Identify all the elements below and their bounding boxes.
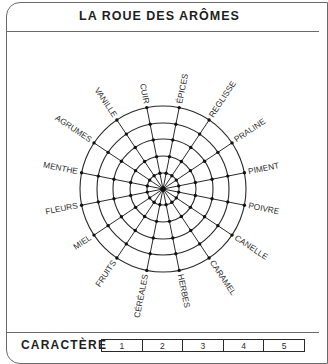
rating-node[interactable] xyxy=(230,141,233,144)
aroma-label-poivre: POIVRE xyxy=(248,200,281,216)
rating-node[interactable] xyxy=(230,233,233,236)
rating-node[interactable] xyxy=(155,155,158,158)
character-label: CARACTÈRE xyxy=(21,338,107,352)
rating-node[interactable] xyxy=(189,169,192,172)
rating-node[interactable] xyxy=(152,201,155,204)
rating-node[interactable] xyxy=(125,242,128,245)
rating-node[interactable] xyxy=(177,106,180,109)
rating-node[interactable] xyxy=(198,132,201,135)
aroma-label-céréales: CÉRÉALES xyxy=(132,273,151,319)
rating-node[interactable] xyxy=(164,203,167,206)
rating-node[interactable] xyxy=(174,123,177,126)
rating-node[interactable] xyxy=(180,160,183,163)
rating-node[interactable] xyxy=(120,215,123,218)
rating-node[interactable] xyxy=(226,174,229,177)
rating-node[interactable] xyxy=(243,171,246,174)
rating-node[interactable] xyxy=(155,220,158,223)
rating-node[interactable] xyxy=(152,174,155,177)
rating-node[interactable] xyxy=(129,194,132,197)
rating-node[interactable] xyxy=(97,174,100,177)
aroma-label-herbes: HERBES xyxy=(176,273,193,309)
rating-node[interactable] xyxy=(148,178,151,181)
rating-node[interactable] xyxy=(80,171,83,174)
rating-node[interactable] xyxy=(177,269,180,272)
scale-cell-2[interactable]: 2 xyxy=(142,340,183,351)
rating-node[interactable] xyxy=(168,220,171,223)
rating-node[interactable] xyxy=(125,132,128,135)
aroma-label-reglisse: REGLISSE xyxy=(207,79,239,119)
rating-node[interactable] xyxy=(189,229,192,232)
rating-node[interactable] xyxy=(148,252,151,255)
rating-node[interactable] xyxy=(146,190,149,193)
rating-node[interactable] xyxy=(177,190,180,193)
rating-node[interactable] xyxy=(143,215,146,218)
rating-node[interactable] xyxy=(168,155,171,158)
rating-node[interactable] xyxy=(134,206,137,209)
rating-node[interactable] xyxy=(120,160,123,163)
rating-node[interactable] xyxy=(189,206,192,209)
rating-node[interactable] xyxy=(115,118,118,121)
rating-node[interactable] xyxy=(194,181,197,184)
rating-node[interactable] xyxy=(134,229,137,232)
aroma-label-agrumes: AGRUMES xyxy=(53,113,94,145)
rating-node[interactable] xyxy=(152,236,155,239)
rating-node[interactable] xyxy=(174,252,177,255)
scale-cell-5[interactable]: 5 xyxy=(263,340,304,351)
rating-node[interactable] xyxy=(92,233,95,236)
rating-node[interactable] xyxy=(129,181,132,184)
rating-node[interactable] xyxy=(134,169,137,172)
rating-node[interactable] xyxy=(189,146,192,149)
rating-node[interactable] xyxy=(203,215,206,218)
rating-node[interactable] xyxy=(171,138,174,141)
rating-node[interactable] xyxy=(92,141,95,144)
rating-node[interactable] xyxy=(158,172,161,175)
rating-node[interactable] xyxy=(175,196,178,199)
rating-node[interactable] xyxy=(210,178,213,181)
aroma-label-menthe: MENTHE xyxy=(42,159,79,176)
rating-node[interactable] xyxy=(216,224,219,227)
rating-node[interactable] xyxy=(198,242,201,245)
rating-node[interactable] xyxy=(115,256,118,259)
rating-node[interactable] xyxy=(170,174,173,177)
rating-node[interactable] xyxy=(175,178,178,181)
rating-node[interactable] xyxy=(177,184,180,187)
rating-node[interactable] xyxy=(226,200,229,203)
aroma-label-vanille: VANILLE xyxy=(93,86,120,120)
rating-node[interactable] xyxy=(112,178,115,181)
rating-node[interactable] xyxy=(203,160,206,163)
rating-node[interactable] xyxy=(210,197,213,200)
aroma-label-piment: PIMENT xyxy=(247,160,280,176)
rating-node[interactable] xyxy=(112,197,115,200)
aroma-label-fleurs: FLEURS xyxy=(44,200,79,216)
aroma-label-cuir: CUIR xyxy=(138,83,152,105)
scale-cell-1[interactable]: 1 xyxy=(102,340,142,351)
scale-cell-3[interactable]: 3 xyxy=(182,340,223,351)
rating-node[interactable] xyxy=(145,269,148,272)
wheel-center xyxy=(161,187,166,192)
rating-node[interactable] xyxy=(80,203,83,206)
rating-node[interactable] xyxy=(106,224,109,227)
aroma-label-canelle: CANELLE xyxy=(233,233,270,263)
rating-node[interactable] xyxy=(97,200,100,203)
rating-node[interactable] xyxy=(148,196,151,199)
rating-node[interactable] xyxy=(171,236,174,239)
rating-node[interactable] xyxy=(143,160,146,163)
footer-divider xyxy=(6,332,319,333)
rating-node[interactable] xyxy=(146,184,149,187)
rating-node[interactable] xyxy=(164,172,167,175)
rating-node[interactable] xyxy=(180,215,183,218)
rating-node[interactable] xyxy=(207,118,210,121)
rating-node[interactable] xyxy=(207,256,210,259)
rating-node[interactable] xyxy=(216,151,219,154)
rating-node[interactable] xyxy=(134,146,137,149)
rating-node[interactable] xyxy=(148,123,151,126)
scale-cell-4[interactable]: 4 xyxy=(223,340,264,351)
rating-node[interactable] xyxy=(152,138,155,141)
rating-node[interactable] xyxy=(106,151,109,154)
rating-node[interactable] xyxy=(243,203,246,206)
rating-node[interactable] xyxy=(158,203,161,206)
rating-node[interactable] xyxy=(194,194,197,197)
rating-node[interactable] xyxy=(170,201,173,204)
rating-node[interactable] xyxy=(145,106,148,109)
